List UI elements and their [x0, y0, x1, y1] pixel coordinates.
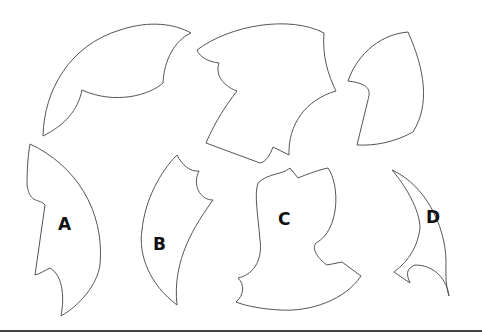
option-a-label: A — [58, 214, 72, 234]
option-c-piece[interactable] — [236, 168, 361, 310]
option-d-piece[interactable] — [392, 170, 449, 296]
piece-top-center — [197, 24, 336, 163]
option-b-piece[interactable] — [141, 155, 213, 305]
option-c-label: C — [278, 209, 290, 229]
puzzle-diagram: A B C D — [0, 0, 482, 334]
piece-top-right — [348, 32, 424, 145]
option-d-label: D — [426, 207, 440, 227]
piece-top-left — [43, 24, 191, 136]
option-b-label: B — [153, 234, 166, 254]
